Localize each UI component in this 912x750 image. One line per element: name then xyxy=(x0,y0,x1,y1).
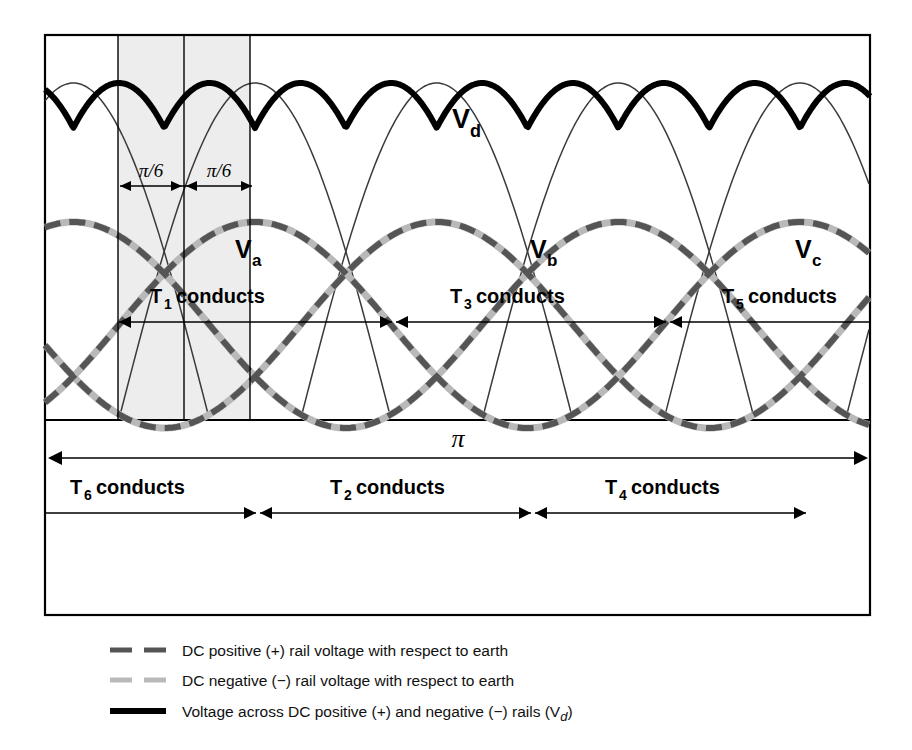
t1-device-sub: 1 xyxy=(164,296,172,312)
t2-device: T xyxy=(330,476,342,498)
va-label-sub: a xyxy=(252,251,262,270)
t3-device: T xyxy=(450,285,462,307)
vb-label-sub: b xyxy=(547,251,557,270)
t5-device-sub: 5 xyxy=(736,296,744,312)
t4-device: T xyxy=(605,476,617,498)
legend-label-positive: DC positive (+) rail voltage with respec… xyxy=(182,642,508,659)
pi6-label-right: π/6 xyxy=(207,160,232,181)
t3-device-sub: 3 xyxy=(464,296,472,312)
vd-label: V xyxy=(452,104,470,134)
vb-label: V xyxy=(530,235,547,263)
pi-span-label: π xyxy=(451,424,465,453)
vc-label-sub: c xyxy=(812,251,821,270)
vd-label-sub: d xyxy=(470,121,481,141)
t2-device-sub: 2 xyxy=(344,487,352,503)
legend-label-negative: DC negative (−) rail voltage with respec… xyxy=(182,672,514,689)
t4-device-sub: 4 xyxy=(619,487,627,503)
t5-device: T xyxy=(722,285,734,307)
figure-container: π/6 π/6 π V d V a V b V xyxy=(0,0,912,750)
t6-device: T xyxy=(70,476,82,498)
t6-device-sub: 6 xyxy=(84,487,92,503)
t1-device: T xyxy=(150,285,162,307)
t3-conducts-text: conducts xyxy=(476,285,565,307)
t6-conducts-text: conducts xyxy=(96,476,185,498)
t5-conducts-text: conducts xyxy=(748,285,837,307)
va-label: V xyxy=(235,235,252,263)
vc-label: V xyxy=(795,235,812,263)
t1-conducts-text: conducts xyxy=(176,285,265,307)
pi6-label-left: π/6 xyxy=(139,160,164,181)
t2-conducts-text: conducts xyxy=(356,476,445,498)
t4-conducts-text: conducts xyxy=(631,476,720,498)
